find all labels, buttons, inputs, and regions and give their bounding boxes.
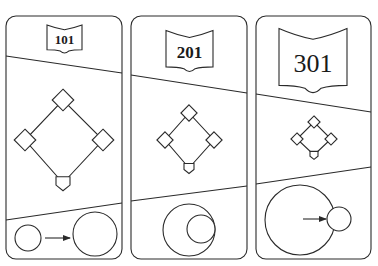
bottom-divider-line bbox=[131, 186, 247, 201]
top-divider-line bbox=[6, 56, 122, 73]
diagram-panel-301: 301 bbox=[256, 16, 371, 259]
small-circle bbox=[327, 207, 351, 231]
baseball-diamond-figure: 101201301 bbox=[0, 0, 378, 266]
diagram-panel-201: 201 bbox=[131, 16, 247, 259]
home-plate-icon bbox=[184, 164, 194, 174]
small-circle bbox=[187, 215, 215, 243]
small-circle bbox=[15, 225, 41, 251]
home-plate-icon bbox=[56, 177, 70, 191]
top-divider-line bbox=[131, 75, 247, 93]
figure-stage: 101201301 bbox=[0, 0, 378, 266]
home-plate-icon bbox=[310, 151, 318, 159]
large-circle bbox=[73, 212, 117, 256]
badge-label: 101 bbox=[55, 32, 75, 47]
badge-label: 201 bbox=[177, 43, 203, 62]
bottom-divider-line bbox=[256, 167, 371, 184]
diagram-panel-101: 101 bbox=[6, 16, 122, 259]
infield-diamond-outline bbox=[25, 100, 103, 183]
badge-label: 301 bbox=[294, 49, 333, 78]
top-divider-line bbox=[256, 94, 371, 112]
large-circle bbox=[265, 185, 335, 255]
panels-layer: 101201301 bbox=[6, 16, 371, 259]
